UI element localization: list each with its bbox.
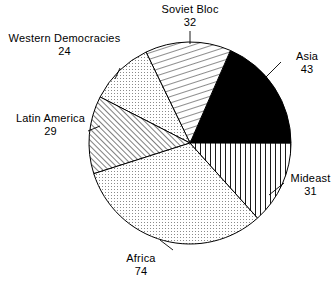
slice-label-latin-america-name: Latin America: [3, 112, 98, 125]
slice-label-mideast: Mideast 31: [286, 172, 335, 198]
slice-label-western-democracies-value: 24: [2, 45, 127, 58]
slice-label-western-democracies: Western Democracies 24: [2, 32, 127, 58]
slice-label-latin-america-value: 29: [3, 125, 98, 138]
slice-label-asia-value: 43: [283, 63, 331, 76]
slice-label-mideast-value: 31: [286, 185, 335, 198]
slice-label-asia-name: Asia: [283, 50, 331, 63]
pie-chart-figure: Soviet Bloc 32 Asia 43 Mideast 31 Africa…: [0, 0, 335, 282]
pie-slices-group: [89, 42, 291, 244]
slice-label-soviet-bloc-value: 32: [145, 16, 235, 29]
slice-label-western-democracies-name: Western Democracies: [2, 32, 127, 45]
slice-label-soviet-bloc: Soviet Bloc 32: [145, 3, 235, 29]
slice-label-latin-america: Latin America 29: [3, 112, 98, 138]
slice-label-africa-name: Africa: [110, 252, 172, 265]
leader-line-asia: [265, 62, 281, 78]
slice-label-mideast-name: Mideast: [286, 172, 335, 185]
slice-label-soviet-bloc-name: Soviet Bloc: [145, 3, 235, 16]
slice-label-africa: Africa 74: [110, 252, 172, 278]
slice-label-africa-value: 74: [110, 265, 172, 278]
slice-label-asia: Asia 43: [283, 50, 331, 76]
